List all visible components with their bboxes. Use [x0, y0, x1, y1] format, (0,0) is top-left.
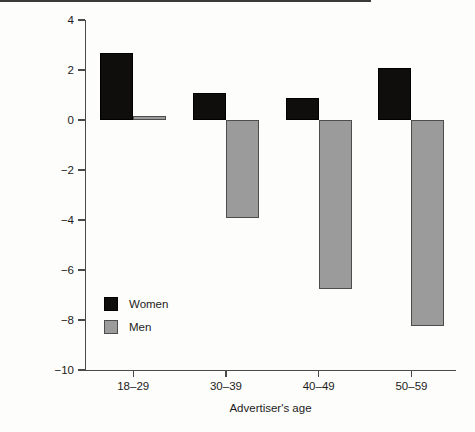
y-tick-label: −8	[34, 314, 74, 326]
y-tick-label: −4	[34, 214, 74, 226]
bar-men-40-49	[319, 120, 352, 289]
x-tick	[411, 370, 412, 377]
y-tick	[78, 319, 85, 320]
y-tick	[78, 119, 85, 120]
chart-legend: Women Men	[104, 292, 168, 338]
legend-swatch-men-icon	[104, 320, 118, 334]
x-tick	[133, 370, 134, 377]
x-axis-line	[85, 370, 456, 371]
legend-label-women: Women	[129, 298, 168, 310]
y-tick-label: 2	[34, 64, 74, 76]
y-tick-label: −2	[34, 164, 74, 176]
bar-women-18-29	[100, 53, 133, 121]
y-tick	[78, 19, 85, 20]
x-tick-label: 40–49	[279, 380, 359, 392]
y-tick	[78, 69, 85, 70]
x-tick-label: 30–39	[186, 380, 266, 392]
y-tick-label: −6	[34, 264, 74, 276]
y-tick-label: 4	[34, 14, 74, 26]
bar-women-50-59	[378, 68, 411, 121]
x-tick	[225, 370, 226, 377]
zero-baseline	[0, 0, 371, 2]
y-tick	[78, 169, 85, 170]
legend-swatch-women-icon	[104, 297, 118, 311]
bar-women-30-39	[193, 93, 226, 121]
bar-men-50-59	[411, 120, 444, 326]
x-tick	[318, 370, 319, 377]
bar-chart-figure: Preferred mean age difference 420−2−4−6−…	[0, 0, 475, 432]
bar-men-30-39	[226, 120, 259, 218]
bar-men-18-29	[133, 116, 166, 120]
legend-item-men: Men	[104, 315, 168, 338]
x-tick-label: 50–59	[371, 380, 451, 392]
y-tick-label: 0	[34, 114, 74, 126]
y-tick	[78, 219, 85, 220]
legend-label-men: Men	[129, 321, 151, 333]
legend-item-women: Women	[104, 292, 168, 315]
y-tick	[78, 269, 85, 270]
y-tick	[78, 369, 85, 370]
bar-women-40-49	[286, 98, 319, 121]
y-tick-label: −10	[34, 364, 74, 376]
x-tick-label: 18–29	[93, 380, 173, 392]
y-axis-line	[85, 20, 86, 371]
x-axis-title: Advertiser's age	[85, 402, 456, 414]
